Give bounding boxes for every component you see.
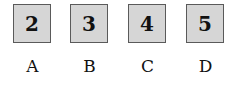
number-tile: 2 [13, 4, 51, 43]
option-d[interactable]: 5 D [186, 0, 226, 87]
option-label: D [186, 56, 225, 76]
option-label: B [70, 56, 109, 76]
option-a[interactable]: 2 A [13, 0, 53, 87]
number-tile: 4 [128, 4, 166, 43]
option-c[interactable]: 4 C [128, 0, 168, 87]
number-tile: 3 [70, 4, 108, 43]
number-tile: 5 [186, 4, 224, 43]
option-label: A [13, 56, 52, 76]
option-b[interactable]: 3 B [70, 0, 110, 87]
option-label: C [128, 56, 167, 76]
